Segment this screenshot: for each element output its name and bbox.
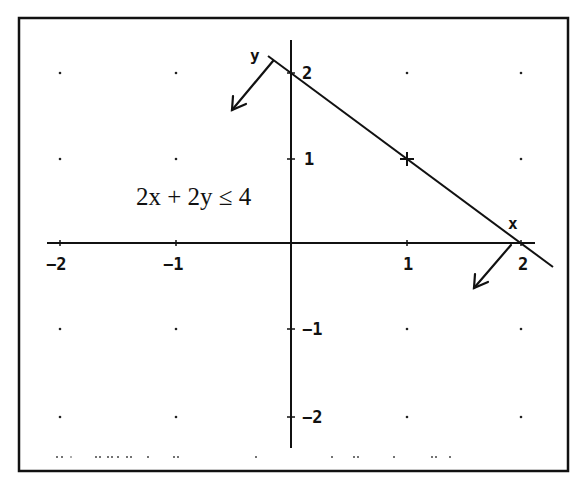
arrow-near-y-intercept bbox=[232, 61, 273, 110]
x-tick-label-neg2: −2 bbox=[46, 254, 66, 274]
noise-dots bbox=[56, 456, 451, 458]
inequality-label: 2x + 2y ≤ 4 bbox=[136, 183, 252, 210]
plot-frame bbox=[19, 18, 568, 471]
y-tick-label-2: 2 bbox=[302, 63, 312, 83]
inequality-graph: −2 −1 1 2 2 1 −1 −2 y x 2x + 2y ≤ 4 bbox=[0, 0, 582, 490]
x-tick-label-1: 1 bbox=[403, 254, 413, 274]
y-tick-label-neg2: −2 bbox=[302, 407, 322, 427]
y-tick-label-1: 1 bbox=[304, 149, 314, 169]
x-tick-label-2: 2 bbox=[518, 254, 528, 274]
y-tick-label-neg1: −1 bbox=[302, 319, 322, 339]
x-tick-label-neg1: −1 bbox=[163, 254, 183, 274]
arrow-near-x-intercept bbox=[474, 245, 511, 288]
y-axis-name: y bbox=[250, 46, 260, 65]
x-axis-name: x bbox=[508, 214, 518, 233]
